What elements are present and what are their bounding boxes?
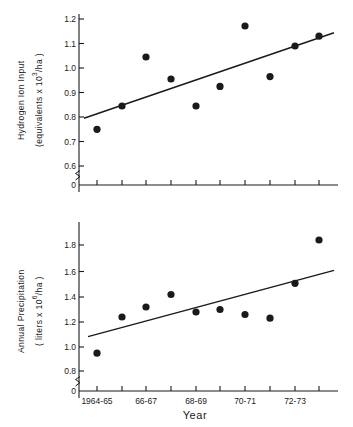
top-panel-y-axis-title-line2: (equivalents x 103/ha ) — [29, 36, 45, 164]
data-point — [266, 315, 273, 322]
bottom-panel-y-ticks — [79, 245, 84, 371]
data-point — [241, 22, 248, 29]
top-panel-ytick-label: 0.8 — [52, 112, 76, 122]
data-point — [93, 126, 100, 133]
data-point — [93, 350, 100, 357]
bottom-panel-ytick-label: 1.2 — [52, 317, 76, 327]
bottom-panel-ytick-label: 1.6 — [52, 267, 76, 277]
xtick-label-1964-65: 1964-65 — [70, 396, 124, 406]
bottom-panel-ytick-label: 1.0 — [52, 342, 76, 352]
x-axis-title: Year — [150, 409, 240, 421]
bottom-panel-ytick-label: 1.8 — [52, 240, 76, 250]
data-point — [315, 33, 322, 40]
top-panel-ytick-label: 0.7 — [52, 137, 76, 147]
bottom-panel-y-axis-title-line2-pre: ( liters x 10 — [34, 299, 44, 346]
top-panel-y-axis-title-line2-post: /ha ) — [34, 53, 44, 72]
data-point — [118, 102, 125, 109]
data-point — [142, 53, 149, 60]
bottom-panel-data-points — [93, 236, 322, 356]
top-panel-ytick-label: 0.9 — [52, 88, 76, 98]
top-panel-x-ticks — [97, 180, 319, 185]
data-point — [216, 83, 223, 90]
top-panel-y-axis-title-line1: Hydrogen Ion Input — [16, 40, 27, 160]
data-point — [216, 306, 223, 313]
top-panel — [76, 14, 339, 192]
top-panel-data-points — [93, 22, 322, 133]
top-panel-ytick-label: 1.2 — [52, 14, 76, 24]
data-point — [118, 313, 125, 320]
data-point — [291, 280, 298, 287]
top-panel-ytick-label: 1.0 — [52, 63, 76, 73]
bottom-panel-x-ticks — [97, 386, 319, 391]
top-panel-y-axis-title-line2-pre: (equivalents x 10 — [34, 76, 44, 147]
data-point — [241, 311, 248, 318]
top-panel-ytick-label: 1.1 — [52, 39, 76, 49]
xtick-label-70-71: 70-71 — [223, 396, 267, 406]
bottom-panel — [76, 222, 339, 398]
data-point — [167, 291, 174, 298]
data-point — [266, 73, 273, 80]
bottom-panel-ytick-label: 1.4 — [52, 292, 76, 302]
top-panel-ytick-label: 0.6 — [52, 161, 76, 171]
top-panel-y-ticks — [79, 19, 84, 166]
data-point — [142, 303, 149, 310]
bottom-panel-ytick-label-zero: 0 — [52, 386, 76, 396]
bottom-panel-trend-line — [88, 270, 334, 336]
xtick-label-68-69: 68-69 — [174, 396, 218, 406]
data-point — [192, 308, 199, 315]
top-panel-y-axis-exponent: 3 — [31, 72, 38, 76]
data-point — [167, 75, 174, 82]
top-panel-ytick-label-zero: 0 — [52, 180, 76, 190]
bottom-panel-y-axis-title-line2-post: /ha ) — [34, 276, 44, 295]
xtick-label-72-73: 72-73 — [273, 396, 317, 406]
data-point — [192, 102, 199, 109]
bottom-panel-y-axis-title-line2: ( liters x 106/ha ) — [29, 246, 45, 376]
bottom-panel-ytick-label: 0.8 — [52, 366, 76, 376]
bottom-panel-y-axis-exponent: 6 — [31, 295, 38, 299]
data-point — [291, 42, 298, 49]
xtick-label-66-67: 66-67 — [124, 396, 168, 406]
data-point — [315, 236, 322, 243]
bottom-panel-y-axis-title-line1: Annual Precipitation — [16, 248, 27, 374]
